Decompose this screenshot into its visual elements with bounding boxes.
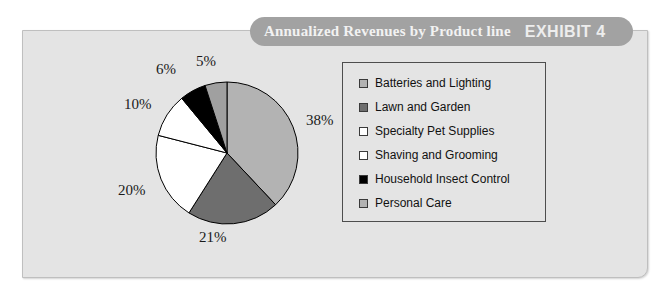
title-banner: Annualized Revenues by Product line EXHI… — [250, 17, 633, 46]
legend-swatch-icon — [359, 175, 368, 184]
pie-label-6: 6% — [156, 61, 176, 78]
legend-item[interactable]: Batteries and Lighting — [359, 71, 545, 95]
pie-label-5: 5% — [196, 53, 216, 70]
legend-item-label: Household Insect Control — [375, 172, 510, 186]
legend-swatch-icon — [359, 127, 368, 136]
legend: Batteries and Lighting Lawn and Garden S… — [342, 62, 546, 222]
legend-swatch-icon — [359, 151, 368, 160]
legend-item[interactable]: Specialty Pet Supplies — [359, 119, 545, 143]
legend-swatch-icon — [359, 103, 368, 112]
pie-chart — [155, 81, 299, 225]
legend-item-label: Specialty Pet Supplies — [375, 124, 494, 138]
legend-item[interactable]: Personal Care — [359, 191, 545, 215]
legend-item-label: Personal Care — [375, 196, 452, 210]
pie-svg — [155, 81, 299, 225]
legend-item-label: Lawn and Garden — [375, 100, 470, 114]
pie-label-38: 38% — [306, 112, 334, 129]
legend-swatch-icon — [359, 79, 368, 88]
chart-frame — [22, 30, 648, 278]
legend-item-label: Batteries and Lighting — [375, 76, 491, 90]
legend-item[interactable]: Household Insect Control — [359, 167, 545, 191]
legend-swatch-icon — [359, 199, 368, 208]
legend-item[interactable]: Shaving and Grooming — [359, 143, 545, 167]
exhibit-number: EXHIBIT 4 — [525, 23, 606, 41]
pie-slice-group — [156, 82, 298, 224]
pie-label-20: 20% — [118, 182, 146, 199]
chart-title: Annualized Revenues by Product line — [264, 23, 511, 40]
pie-label-10: 10% — [124, 96, 152, 113]
legend-item-label: Shaving and Grooming — [375, 148, 498, 162]
legend-item[interactable]: Lawn and Garden — [359, 95, 545, 119]
pie-label-21: 21% — [199, 229, 227, 246]
